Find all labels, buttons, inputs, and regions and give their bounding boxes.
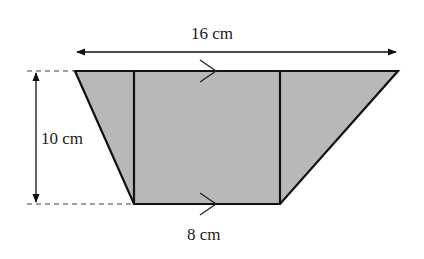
height-label: 10 cm xyxy=(41,130,83,147)
trapezium-shape xyxy=(75,71,398,204)
trapezium-diagram: 16 cm 10 cm 8 cm xyxy=(0,0,424,259)
bottom-width-label: 8 cm xyxy=(187,226,221,243)
top-width-label: 16 cm xyxy=(191,25,233,42)
